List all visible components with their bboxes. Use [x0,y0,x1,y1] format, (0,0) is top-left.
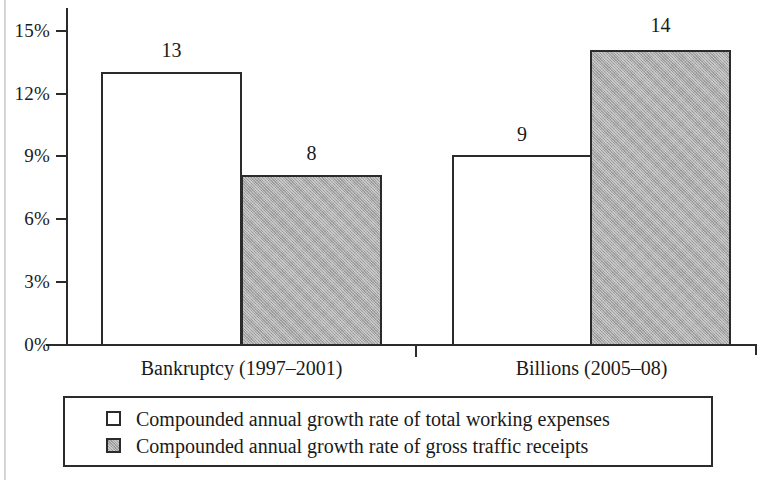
legend-item-gross-traffic-receipts: Compounded annual growth rate of gross t… [106,432,610,459]
legend-swatch-white-icon [106,411,121,426]
bar-group2-series2 [590,50,731,346]
x-tick-group-separator [415,346,417,357]
plot-area: 15% 12% 9% 6% 3% 0% 13 8 9 [0,0,767,390]
x-axis-category-label-2: Billions (2005–08) [452,356,731,380]
bar-value-group1-series1: 13 [101,40,242,60]
bar-value-group2-series2: 14 [590,15,731,35]
bar-chart-figure: 15% 12% 9% 6% 3% 0% 13 8 9 [0,0,767,480]
legend-label-gross-traffic-receipts: Compounded annual growth rate of gross t… [136,435,588,457]
legend-items: Compounded annual growth rate of total w… [106,405,610,459]
bar-group1-series2 [241,175,382,346]
legend-item-total-working-expenses: Compounded annual growth rate of total w… [106,405,610,432]
bar-value-group1-series2: 8 [241,143,382,163]
chart-legend: Compounded annual growth rate of total w… [63,396,713,467]
bar-group2-series1 [452,155,592,346]
legend-label-total-working-expenses: Compounded annual growth rate of total w… [136,408,610,430]
bar-value-group2-series1: 9 [452,124,592,144]
bar-group1-series1 [101,72,242,346]
legend-swatch-gray-icon [106,438,121,453]
x-axis-category-label-1: Bankruptcy (1997–2001) [101,356,382,380]
